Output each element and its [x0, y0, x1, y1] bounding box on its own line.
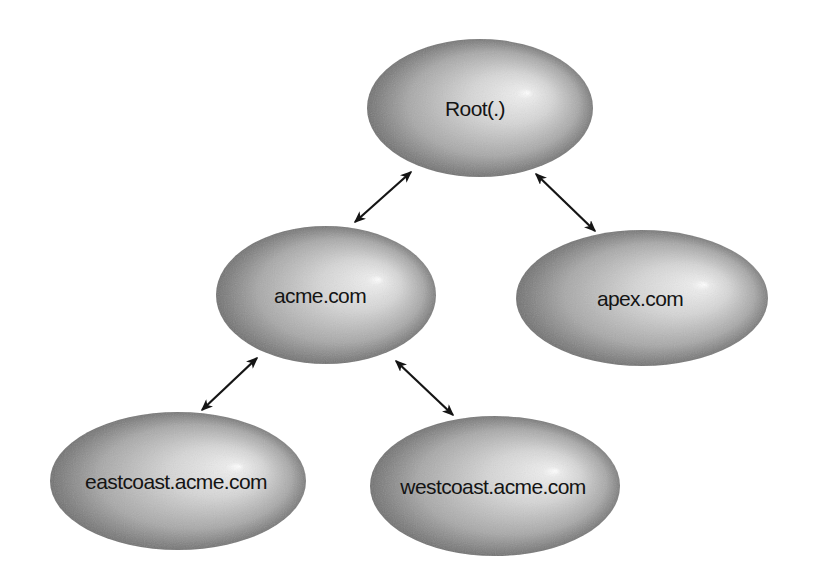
edge-acme-eastcoast	[202, 358, 257, 410]
node-westcoast: westcoast.acme.com	[370, 416, 620, 556]
node-eastcoast: eastcoast.acme.com	[50, 412, 306, 550]
nodes: Root(.) acme.com apex.com eastcoast.acme…	[50, 39, 768, 556]
node-apex: apex.com	[516, 230, 768, 366]
edge-acme-westcoast	[396, 361, 453, 415]
node-root-label: Root(.)	[445, 97, 505, 120]
node-root: Root(.)	[367, 39, 593, 177]
node-apex-label: apex.com	[597, 287, 683, 310]
node-eastcoast-label: eastcoast.acme.com	[85, 470, 267, 493]
node-acme: acme.com	[216, 226, 436, 364]
dns-hierarchy-diagram: Root(.) acme.com apex.com eastcoast.acme…	[0, 0, 814, 584]
edge-root-acme	[355, 172, 411, 222]
node-westcoast-label: westcoast.acme.com	[399, 475, 585, 498]
node-acme-label: acme.com	[274, 284, 366, 307]
edge-root-apex	[536, 174, 595, 231]
